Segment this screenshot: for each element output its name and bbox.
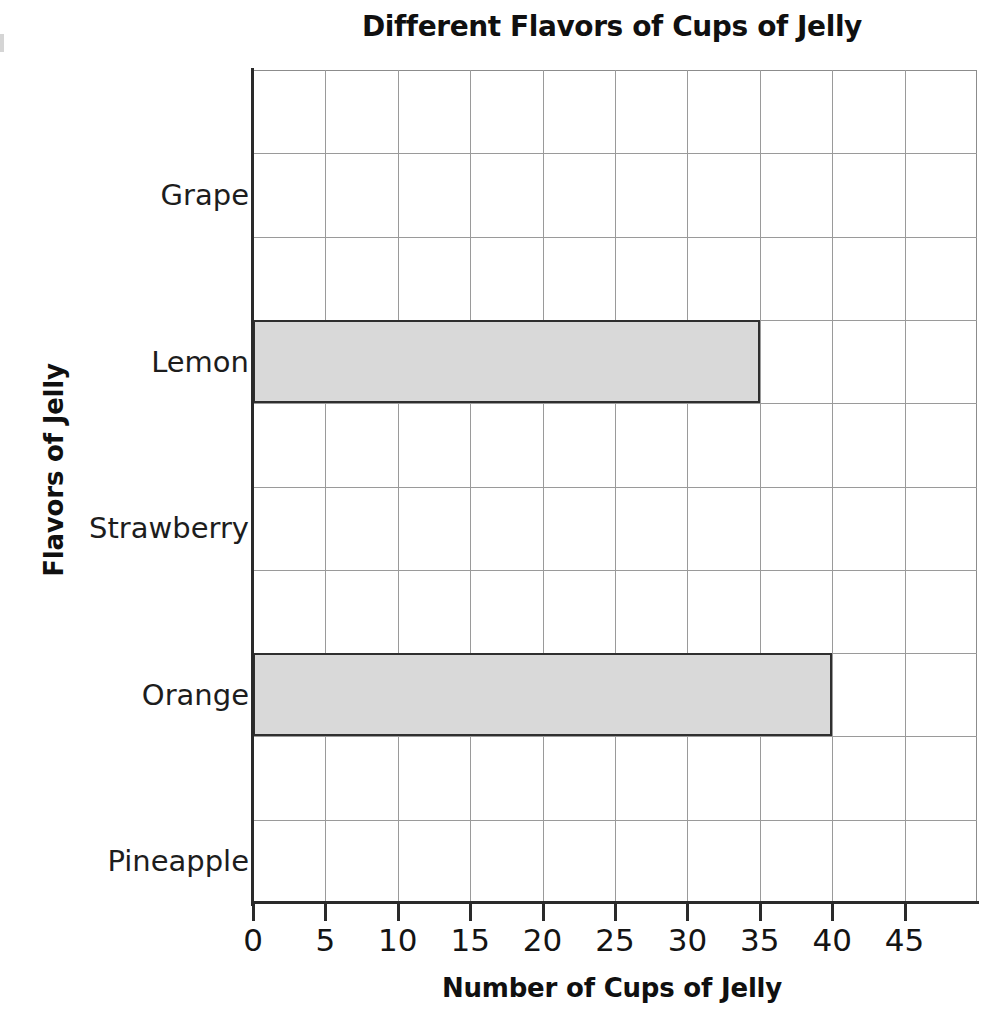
gridline-horizontal xyxy=(253,820,977,821)
x-axis-tick-label: 35 xyxy=(740,922,779,958)
x-axis-tick-label: 40 xyxy=(812,922,851,958)
bar-lemon xyxy=(253,320,760,403)
x-axis-tick-label: 30 xyxy=(668,922,707,958)
bar-orange xyxy=(253,653,832,736)
x-axis-title: Number of Cups of Jelly xyxy=(240,973,984,1003)
category-label-orange: Orange xyxy=(142,678,249,712)
category-label-lemon: Lemon xyxy=(151,345,249,379)
gridline-horizontal xyxy=(253,570,977,571)
plot-area xyxy=(253,70,977,903)
x-axis-tick-label: 10 xyxy=(378,922,417,958)
y-axis-title: Flavors of Jelly xyxy=(39,320,69,620)
chart-title: Different Flavors of Cups of Jelly xyxy=(240,10,984,43)
gridline-horizontal xyxy=(253,153,977,154)
category-label-strawberry: Strawberry xyxy=(89,511,249,545)
category-label-pineapple: Pineapple xyxy=(107,844,249,878)
x-axis-tick xyxy=(759,904,762,921)
x-axis-tick xyxy=(469,904,472,921)
x-axis-tick xyxy=(252,904,255,921)
category-label-grape: Grape xyxy=(161,178,249,212)
scan-artifact xyxy=(0,34,4,52)
x-axis-tick xyxy=(686,904,689,921)
gridline-horizontal xyxy=(253,403,977,404)
x-axis-tick xyxy=(397,904,400,921)
x-axis-tick-label: 20 xyxy=(523,922,562,958)
gridline-horizontal xyxy=(253,487,977,488)
chart-page: Different Flavors of Cups of Jelly 05101… xyxy=(0,0,984,1016)
x-axis-tick-label: 25 xyxy=(595,922,634,958)
gridline-horizontal xyxy=(253,736,977,737)
x-axis-tick-label: 0 xyxy=(243,922,263,958)
gridline-horizontal xyxy=(253,237,977,238)
x-axis-tick-label: 15 xyxy=(450,922,489,958)
y-axis-line xyxy=(251,68,254,906)
x-axis-tick xyxy=(324,904,327,921)
x-axis-tick xyxy=(904,904,907,921)
x-axis-tick xyxy=(542,904,545,921)
x-axis-tick xyxy=(831,904,834,921)
x-axis-tick-label: 45 xyxy=(885,922,924,958)
x-axis-tick xyxy=(614,904,617,921)
x-axis-tick-label: 5 xyxy=(316,922,336,958)
